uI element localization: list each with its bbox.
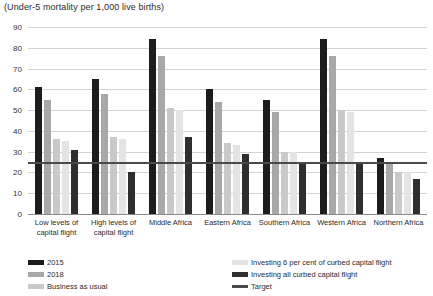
category-label-line: Eastern Africa — [200, 218, 255, 228]
bar — [413, 179, 420, 214]
legend-label: Investing 6 per cent of curbed capital f… — [251, 258, 392, 267]
bar — [92, 79, 99, 214]
bar — [320, 39, 327, 214]
bar — [185, 137, 192, 214]
category-label-line: capital flight — [29, 228, 84, 238]
y-tick-label: 30 — [13, 147, 22, 156]
bar — [404, 172, 411, 214]
bar — [224, 143, 231, 214]
legend-label: Target — [251, 282, 272, 291]
category-label-line: Low levels of — [29, 218, 84, 228]
x-axis-category-label: Northern Africa — [370, 218, 427, 244]
category-label-line: Northern Africa — [371, 218, 426, 228]
category-label-line: High levels of — [86, 218, 141, 228]
legend-label: 2015 — [47, 258, 64, 267]
legend-item[interactable]: Business as usual — [28, 280, 224, 292]
x-axis-category-label: Eastern Africa — [199, 218, 256, 244]
bar — [395, 172, 402, 214]
bar — [290, 152, 297, 214]
legend-item[interactable]: Investing all curbed capital flight — [232, 268, 428, 280]
bar-group — [370, 27, 427, 214]
bar — [386, 162, 393, 214]
y-tick-label: 70 — [13, 64, 22, 73]
legend-swatch-icon — [28, 284, 44, 289]
legend-item[interactable]: Investing 6 per cent of curbed capital f… — [232, 256, 428, 268]
bar-group — [142, 27, 199, 214]
bar — [233, 145, 240, 214]
bar — [329, 56, 336, 214]
bar — [377, 158, 384, 214]
category-label-line: Middle Africa — [143, 218, 198, 228]
bar — [110, 137, 117, 214]
legend-item[interactable]: 2015 — [28, 256, 224, 268]
chart-title: (Under-5 mortality per 1,000 live births… — [4, 2, 164, 12]
x-axis-category-label: Middle Africa — [142, 218, 199, 244]
bar-groups — [28, 27, 427, 214]
y-tick-label: 50 — [13, 106, 22, 115]
legend-swatch-icon — [232, 272, 248, 277]
legend-swatch-icon — [28, 260, 44, 265]
y-tick-label: 0 — [18, 210, 22, 219]
bar — [71, 150, 78, 214]
y-tick-label: 40 — [13, 126, 22, 135]
bar — [281, 152, 288, 214]
bar — [167, 108, 174, 214]
y-tick-label: 10 — [13, 189, 22, 198]
x-axis-category-label: Low levels ofcapital flight — [28, 218, 85, 244]
x-axis-category-label: Southern Africa — [256, 218, 313, 244]
plot-area — [28, 27, 427, 215]
bar — [215, 102, 222, 214]
bar-group — [28, 27, 85, 214]
category-label-line: capital flight — [86, 228, 141, 238]
legend-label: Business as usual — [47, 282, 107, 291]
legend-item[interactable]: 2018 — [28, 268, 224, 280]
bar — [263, 100, 270, 214]
bar — [158, 56, 165, 214]
bar — [206, 89, 213, 214]
y-tick-label: 60 — [13, 85, 22, 94]
bar-group — [199, 27, 256, 214]
bar — [44, 100, 51, 214]
legend-swatch-icon — [28, 272, 44, 277]
bar — [53, 139, 60, 214]
bar — [119, 139, 126, 214]
y-tick-label: 20 — [13, 168, 22, 177]
bar — [101, 94, 108, 215]
y-axis-labels: 0102030405060708090 — [0, 27, 26, 214]
y-tick-label: 90 — [13, 23, 22, 32]
bar — [356, 162, 363, 214]
legend-item[interactable]: Target — [232, 280, 428, 292]
legend-label: Investing all curbed capital flight — [251, 270, 357, 279]
bar-group — [256, 27, 313, 214]
bar — [149, 39, 156, 214]
legend-swatch-icon — [232, 260, 248, 265]
chart-legend: 2015Investing 6 per cent of curbed capit… — [28, 256, 428, 294]
bar-group — [85, 27, 142, 214]
x-axis-categories: Low levels ofcapital flightHigh levels o… — [28, 218, 427, 244]
category-label-line: Southern Africa — [257, 218, 312, 228]
x-axis-category-label: Western Africa — [313, 218, 370, 244]
bar — [128, 172, 135, 214]
bar — [35, 87, 42, 214]
bar-group — [313, 27, 370, 214]
y-tick-label: 80 — [13, 43, 22, 52]
chart-container: (Under-5 mortality per 1,000 live births… — [0, 0, 433, 296]
x-axis-category-label: High levels ofcapital flight — [85, 218, 142, 244]
legend-label: 2018 — [47, 270, 64, 279]
target-line — [28, 162, 427, 164]
bar — [62, 141, 69, 214]
bar — [299, 162, 306, 214]
legend-swatch-icon — [232, 285, 248, 288]
category-label-line: Western Africa — [314, 218, 369, 228]
